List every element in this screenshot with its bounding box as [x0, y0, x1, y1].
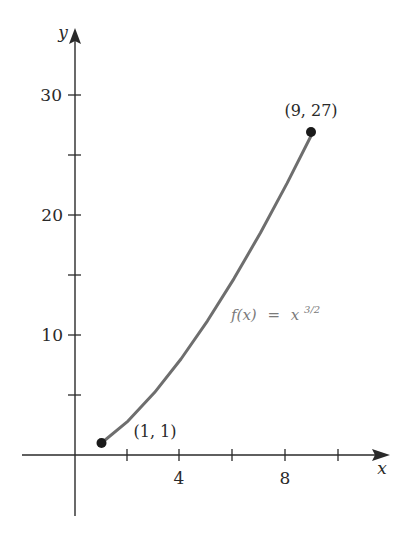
function-label-base: x	[291, 306, 300, 324]
function-curve	[102, 131, 314, 443]
x-tick-label-8: 8	[280, 468, 291, 488]
y-axis-label: y	[57, 22, 68, 42]
point-start	[97, 438, 107, 448]
x-axis-label: x	[377, 458, 387, 478]
x-axis: 4 8 x	[22, 449, 390, 488]
y-axis: 30 20 10 y	[40, 22, 81, 516]
point-start-label: (1, 1)	[133, 422, 176, 441]
x-tick-label-4: 4	[174, 468, 185, 488]
y-tick-label-10: 10	[41, 325, 63, 345]
function-label: f(x) = x 3/2	[230, 304, 320, 324]
function-label-lhs: f(x)	[230, 306, 257, 324]
function-label-eq: =	[268, 306, 281, 324]
function-plot: 4 8 x 30 20 10 y (1, 1) (9, 27) f(x) = x…	[0, 0, 407, 541]
point-end	[306, 127, 316, 137]
y-tick-label-20: 20	[41, 205, 63, 225]
point-end-label: (9, 27)	[284, 101, 337, 120]
y-tick-label-30: 30	[40, 85, 62, 105]
function-label-exponent: 3/2	[304, 304, 320, 315]
